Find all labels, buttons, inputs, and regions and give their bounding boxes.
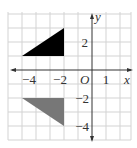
origin-label: O [80,72,90,87]
y-tick-minus2: −2 [75,91,89,106]
y-axis-arrow-down-icon [90,136,94,142]
coordinate-plane: y x O −4 −2 1 2 −2 −4 [0,0,137,148]
y-tick-minus4: −4 [75,119,89,134]
y-tick-2: 2 [82,35,89,50]
x-tick-minus2: −2 [53,72,67,87]
y-axis-label: y [93,9,101,24]
x-tick-1: 1 [103,72,110,87]
x-tick-minus4: −4 [22,72,36,87]
x-axis-arrow-left-icon [10,68,16,72]
x-axis-label: x [123,72,130,87]
